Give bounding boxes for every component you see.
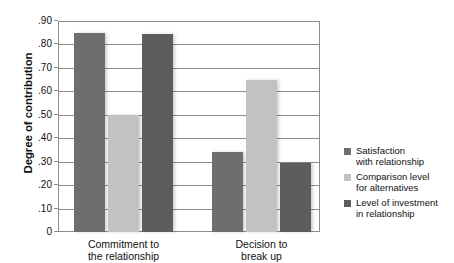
- x-category-label-line: Commitment to: [54, 238, 194, 250]
- legend-item[interactable]: Comparison levelfor alternatives: [344, 172, 454, 193]
- legend-item-label-line: Level of investment: [356, 198, 438, 209]
- legend-item-label-line: Comparison level: [356, 172, 429, 183]
- bar-chart: Degree of contribution 0.10.20.30.40.50.…: [0, 0, 454, 263]
- legend-item[interactable]: Satisfactionwith relationship: [344, 146, 454, 167]
- legend-swatch-icon: [344, 174, 351, 181]
- legend-item-label-line: with relationship: [356, 157, 424, 168]
- bar: [108, 115, 139, 232]
- bar: [280, 163, 311, 232]
- x-category-label-line: break up: [192, 250, 332, 262]
- x-category-label: Decision tobreak up: [192, 238, 332, 262]
- legend-item-label-line: Satisfaction: [356, 146, 424, 157]
- legend-swatch-icon: [344, 148, 351, 155]
- bar: [142, 34, 173, 232]
- x-category-label-line: Decision to: [192, 238, 332, 250]
- x-category-label-line: the relationship: [54, 250, 194, 262]
- legend-item[interactable]: Level of investmentin relationship: [344, 198, 454, 219]
- legend-item-label-line: for alternatives: [356, 183, 429, 194]
- legend-item-label: Comparison levelfor alternatives: [356, 172, 429, 193]
- bar: [74, 33, 105, 232]
- bar: [212, 152, 243, 232]
- legend-item-label: Level of investmentin relationship: [356, 198, 438, 219]
- x-category-label: Commitment tothe relationship: [54, 238, 194, 262]
- legend-swatch-icon: [344, 200, 351, 207]
- legend: Satisfactionwith relationshipComparison …: [344, 146, 454, 224]
- bar: [246, 80, 277, 232]
- legend-item-label-line: in relationship: [356, 209, 438, 220]
- legend-item-label: Satisfactionwith relationship: [356, 146, 424, 167]
